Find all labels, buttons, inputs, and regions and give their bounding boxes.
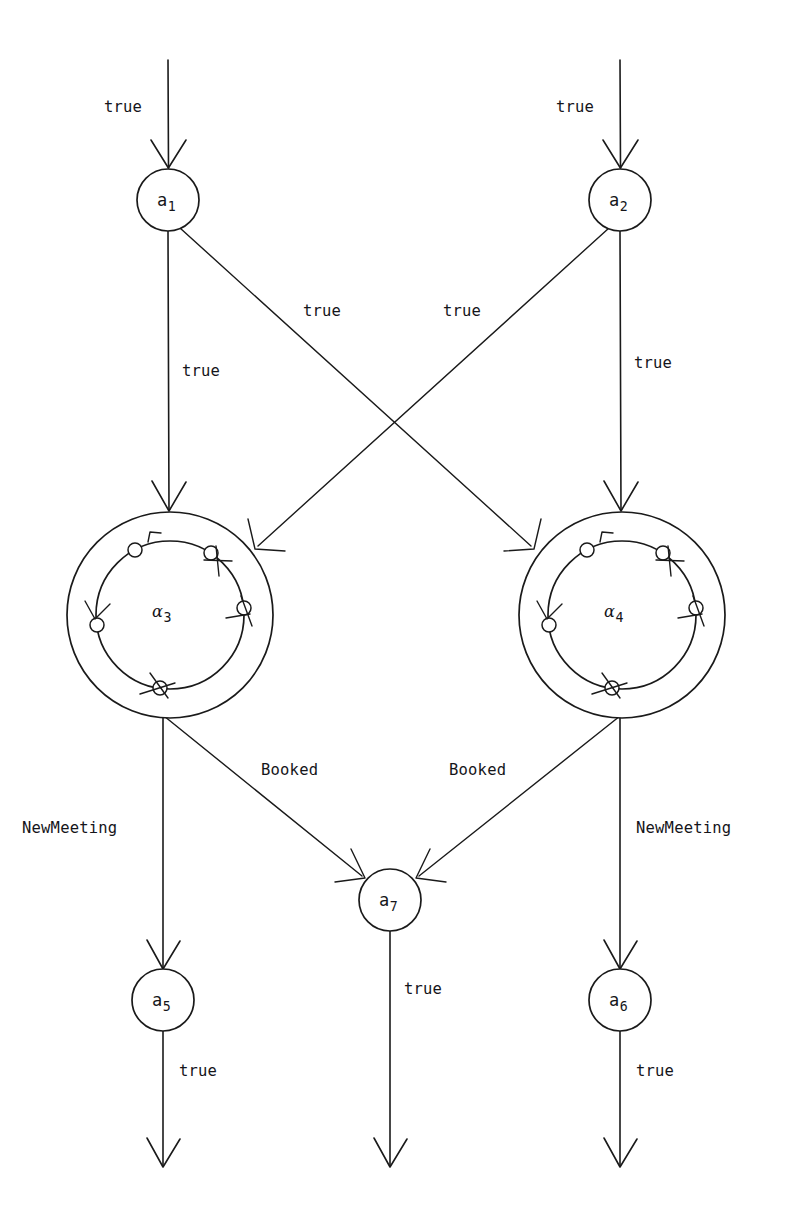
substate-marker (128, 543, 142, 557)
edge-a2-to-a3 (248, 228, 609, 551)
edge-label-a3-a7: Booked (261, 763, 318, 779)
edge-label-a4-a6: NewMeeting (636, 821, 731, 837)
edge-a3-to-a7 (164, 716, 365, 882)
edge-label-a2-a4: true (634, 356, 672, 372)
edge-a2-to-a4 (604, 231, 638, 511)
edge-a3-to-a5 (147, 718, 180, 969)
edge-a7-to-exit (374, 931, 407, 1167)
substate-marker (580, 543, 594, 557)
node-label-alpha4: α4 (604, 603, 623, 624)
node-label-alpha3: α3 (152, 603, 171, 624)
substate-marker (542, 618, 556, 632)
edge-label-a3-a5: NewMeeting (22, 821, 117, 837)
edge-label-a4-a7: Booked (449, 763, 506, 779)
substate-marker (90, 618, 104, 632)
node-label-a5: a5 (152, 992, 171, 1013)
node-label-a7: a7 (379, 892, 398, 913)
edge-a4-to-a6 (604, 718, 637, 969)
state-diagram-canvas: a1 a2 α3 α4 a7 a5 a6 true true true true… (0, 0, 796, 1216)
edge-a4-to-a7 (416, 716, 620, 882)
diagram-svg (0, 0, 796, 1216)
edge-a1-to-a3 (152, 231, 186, 511)
edge-label-entry-a1: true (104, 100, 142, 116)
edge-label-a6-exit: true (636, 1064, 674, 1080)
node-label-a1: a1 (157, 192, 176, 213)
edge-a6-to-exit (604, 1031, 637, 1167)
node-label-a2: a2 (609, 192, 628, 213)
edge-label-entry-a2: true (556, 100, 594, 116)
edge-label-a1-a4: true (303, 304, 341, 320)
edge-a1-to-a4 (180, 228, 541, 551)
edge-a5-to-exit (147, 1031, 180, 1167)
node-label-a6: a6 (609, 992, 628, 1013)
edge-label-a1-a3: true (182, 364, 220, 380)
edge-entry-to-a2 (603, 60, 638, 168)
edge-label-a7-exit: true (404, 982, 442, 998)
edge-entry-to-a1 (151, 60, 186, 168)
edge-label-a5-exit: true (179, 1064, 217, 1080)
edge-label-a2-a3: true (443, 304, 481, 320)
